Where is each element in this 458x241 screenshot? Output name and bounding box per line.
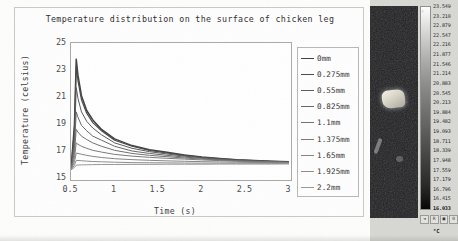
scale-tick-label: 20.213: [433, 100, 451, 105]
legend-item[interactable]: 1.1mm: [298, 115, 358, 131]
y-tick-label: 25: [40, 38, 66, 46]
legend-swatch: [301, 74, 314, 75]
scale-tick-label: 17.179: [433, 177, 451, 182]
x-tick-label: 2.5: [229, 185, 259, 193]
scale-tick-label: 19.093: [433, 129, 451, 134]
scale-tick-label: 17.559: [433, 168, 451, 173]
scale-tick-label: 22.216: [433, 42, 451, 47]
legend-label: 1.925mm: [317, 167, 350, 176]
legend-swatch: [301, 171, 314, 172]
scale-tick-label: 22.879: [433, 23, 451, 28]
x-tick-label: 2: [186, 185, 216, 193]
legend-swatch: [301, 106, 314, 107]
x-axis-label: Time (s): [60, 206, 290, 216]
scale-tick-label: 17.948: [433, 158, 451, 163]
legend-item[interactable]: 0.825mm: [298, 99, 358, 115]
legend-label: 0.825mm: [317, 102, 350, 111]
scale-tick-label: 21.546: [433, 62, 451, 67]
scale-tick-label: 16.796: [433, 187, 451, 192]
scale-tick-label: 21.214: [433, 71, 451, 76]
legend-swatch: [301, 139, 314, 140]
y-axis-label: Temperature (celsius): [20, 40, 30, 180]
infrared-image: [370, 6, 418, 218]
color-scale-bar[interactable]: [420, 6, 431, 210]
thermal-panel: ▲ 23.54923.21022.87922.54722.21621.87721…: [370, 0, 458, 241]
ir-blob: [396, 156, 403, 162]
scale-tick-label: 16.415: [433, 196, 451, 201]
legend-label: 0.275mm: [317, 70, 350, 79]
temperature-unit-label: °C: [433, 228, 440, 234]
series-line: [71, 164, 289, 170]
y-tick-label: 21: [40, 92, 66, 100]
scale-toolbar-button[interactable]: R: [430, 215, 439, 224]
legend-label: 0mm: [317, 54, 331, 63]
chart-panel: Temperature distribution on the surface …: [0, 0, 370, 241]
plot-area: [70, 42, 292, 181]
legend-swatch: [301, 122, 314, 123]
scale-toolbar-button[interactable]: ■: [440, 215, 449, 224]
legend-item[interactable]: 0.275mm: [298, 66, 358, 82]
y-tick-label: 17: [40, 146, 66, 154]
legend-item[interactable]: 1.925mm: [298, 163, 358, 179]
legend-swatch: [301, 58, 314, 59]
scale-tick-label: 19.884: [433, 110, 451, 115]
legend-label: 1.1mm: [317, 118, 340, 127]
legend-label: 2.2mm: [317, 183, 340, 192]
scale-tick-label: 16.033: [433, 206, 451, 211]
legend-label: 1.375mm: [317, 135, 350, 144]
ir-noise-texture: [370, 6, 418, 218]
scale-tick-label: 21.877: [433, 52, 451, 57]
scale-tick-label: 18.339: [433, 148, 451, 153]
legend-item[interactable]: 1.65mm: [298, 147, 358, 163]
scale-tick-label: 20.545: [433, 91, 451, 96]
y-tick-label: 23: [40, 65, 66, 73]
sample-hotspot: [381, 89, 406, 109]
scale-tick-label: 19.482: [433, 119, 451, 124]
legend-swatch: [301, 90, 314, 91]
legend-label: 0.55mm: [317, 86, 345, 95]
x-axis-ticks: 0.511.522.53: [70, 185, 290, 199]
scale-toolbar-button[interactable]: 0: [449, 215, 458, 224]
figure-root: Temperature distribution on the surface …: [0, 0, 458, 241]
page-edge-shadow: [0, 235, 458, 241]
legend-item[interactable]: 0.55mm: [298, 82, 358, 98]
legend-item[interactable]: 0mm: [298, 50, 358, 66]
scale-tick-label: 20.883: [433, 81, 451, 86]
series-line: [71, 59, 289, 170]
series-line: [71, 66, 289, 170]
legend-swatch: [301, 155, 314, 156]
curve-group: [71, 43, 289, 178]
scale-tick-label: 22.547: [433, 33, 451, 38]
y-axis-ticks: 151719212325: [40, 42, 66, 179]
legend-swatch: [301, 187, 314, 188]
scale-caret-icon[interactable]: ▲: [421, 7, 424, 13]
scale-tick-label: 18.711: [433, 139, 451, 144]
y-tick-label: 15: [40, 173, 66, 181]
scale-tick-label: 23.210: [433, 14, 451, 19]
scale-toolbar[interactable]: ◄R■0: [420, 215, 458, 224]
y-tick-label: 19: [40, 119, 66, 127]
scale-tick-label: 23.549: [433, 4, 451, 9]
x-tick-label: 1: [99, 185, 129, 193]
scale-toolbar-button[interactable]: ◄: [420, 215, 429, 224]
color-scale-labels: 23.54923.21022.87922.54722.21621.87721.5…: [433, 4, 458, 214]
x-tick-label: 1.5: [142, 185, 172, 193]
chart-title: Temperature distribution on the surface …: [40, 14, 340, 24]
legend-label: 1.65mm: [317, 151, 345, 160]
legend-item[interactable]: 1.375mm: [298, 131, 358, 147]
legend-item[interactable]: 2.2mm: [298, 180, 358, 196]
chart-legend: 0mm0.275mm0.55mm0.825mm1.1mm1.375mm1.65m…: [297, 47, 359, 197]
x-tick-label: 0.5: [55, 185, 85, 193]
